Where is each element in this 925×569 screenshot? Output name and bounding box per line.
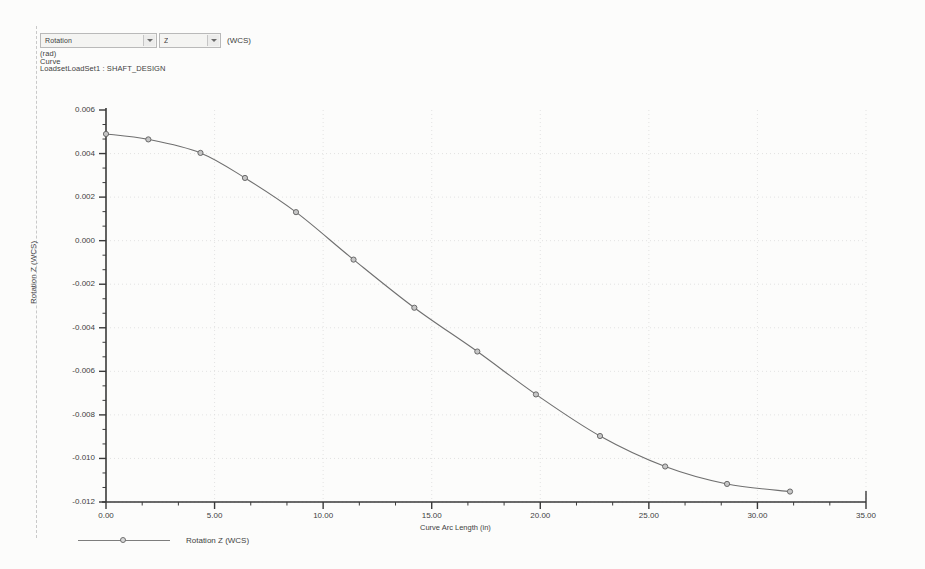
y-axis-tick-label: -0.010 [49,453,95,462]
y-axis-tick-label: -0.002 [49,279,95,288]
data-point-marker [146,137,151,142]
data-point-marker [787,489,792,494]
y-axis-tick-label: 0.002 [49,192,95,201]
y-axis-tick-label: -0.008 [49,410,95,419]
data-point-marker [597,433,602,438]
y-axis-title: Rotation Z (WCS) [29,218,38,328]
x-axis-tick-label: 10.00 [298,511,348,520]
data-point-marker [351,257,356,262]
y-axis-tick-label: 0.004 [49,149,95,158]
x-axis-tick-label: 15.00 [407,511,457,520]
chart-legend: Rotation Z (WCS) [78,536,249,545]
data-point-marker [475,349,480,354]
data-point-marker [724,481,729,486]
y-axis-tick-label: 0.006 [49,105,95,114]
y-axis-tick-label: -0.012 [49,497,95,506]
x-axis-tick-label: 5.00 [190,511,240,520]
plot-window: Rotation Z (WCS) (rad) Curve LoadsetLoad… [0,0,925,569]
chart-area: Rotation Z (WCS) Curve Arc Length (in) 0… [0,0,925,569]
x-axis-title: Curve Arc Length (in) [420,523,491,532]
x-axis-tick-label: 25.00 [624,511,674,520]
plot-svg [0,0,925,569]
data-point-marker [103,131,108,136]
data-point-marker [293,210,298,215]
data-point-marker [198,150,203,155]
y-axis-tick-label: -0.004 [49,323,95,332]
data-point-marker [663,464,668,469]
x-axis-tick-label: 20.00 [515,511,565,520]
legend-marker-icon [120,537,126,543]
x-axis-tick-label: 30.00 [732,511,782,520]
data-point-marker [533,392,538,397]
data-point-marker [242,175,247,180]
y-axis-tick-label: -0.006 [49,366,95,375]
x-axis-tick-label: 0.00 [81,511,131,520]
legend-entry-label: Rotation Z (WCS) [186,536,249,545]
legend-line-sample [78,536,170,545]
y-axis-tick-label: 0.000 [49,236,95,245]
data-series-line [106,134,790,492]
x-axis-tick-label: 35.00 [841,511,891,520]
data-point-marker [412,305,417,310]
